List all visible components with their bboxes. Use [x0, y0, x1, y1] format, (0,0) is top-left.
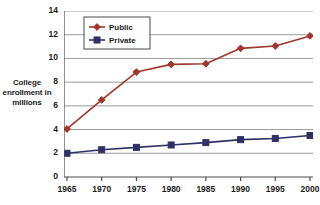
- legend-label: Private: [109, 36, 136, 45]
- data-point: [99, 147, 105, 153]
- data-point: [202, 60, 209, 67]
- data-point: [238, 137, 244, 143]
- y-axis-tick-label: 4: [28, 124, 58, 135]
- data-point: [133, 144, 139, 150]
- data-point: [237, 45, 244, 52]
- data-point: [168, 61, 175, 68]
- data-series-layer: [64, 33, 313, 157]
- chart-legend: PublicPrivate: [84, 17, 150, 49]
- y-axis-tick-label: 0: [28, 171, 58, 182]
- data-point: [307, 33, 313, 40]
- x-axis-ticks: [67, 177, 310, 181]
- x-axis-tick-label: 1970: [86, 184, 118, 194]
- data-point: [168, 142, 174, 148]
- x-axis-tick-label: 1985: [190, 184, 222, 194]
- x-axis-tick-label: 1995: [259, 184, 291, 194]
- y-axis-tick-label: 6: [28, 100, 58, 111]
- x-axis-tick-label: 1980: [155, 184, 187, 194]
- y-axis-tick-label: 14: [28, 5, 58, 16]
- y-axis-tick-label: 12: [28, 29, 58, 40]
- y-axis-title-line-2: enrollment in: [2, 88, 52, 98]
- x-axis-tick-label: 1990: [225, 184, 257, 194]
- data-point: [272, 135, 278, 141]
- data-point: [307, 133, 313, 139]
- y-axis-tick-label: 10: [28, 52, 58, 63]
- legend-marker: [94, 37, 100, 43]
- chart-canvas: PublicPrivate: [64, 11, 313, 188]
- line-chart: College enrollment in millions PublicPri…: [0, 0, 320, 205]
- data-point: [64, 150, 70, 156]
- y-axis-tick-label: 2: [28, 147, 58, 158]
- plot-area: PublicPrivate: [64, 11, 313, 188]
- data-point: [272, 43, 279, 50]
- x-axis-tick-label: 1965: [51, 184, 83, 194]
- data-point: [203, 140, 209, 146]
- x-axis-tick-label: 1975: [120, 184, 152, 194]
- x-axis-tick-label: 2000: [294, 184, 320, 194]
- legend-label: Public: [109, 23, 134, 32]
- y-axis-tick-label: 8: [28, 76, 58, 87]
